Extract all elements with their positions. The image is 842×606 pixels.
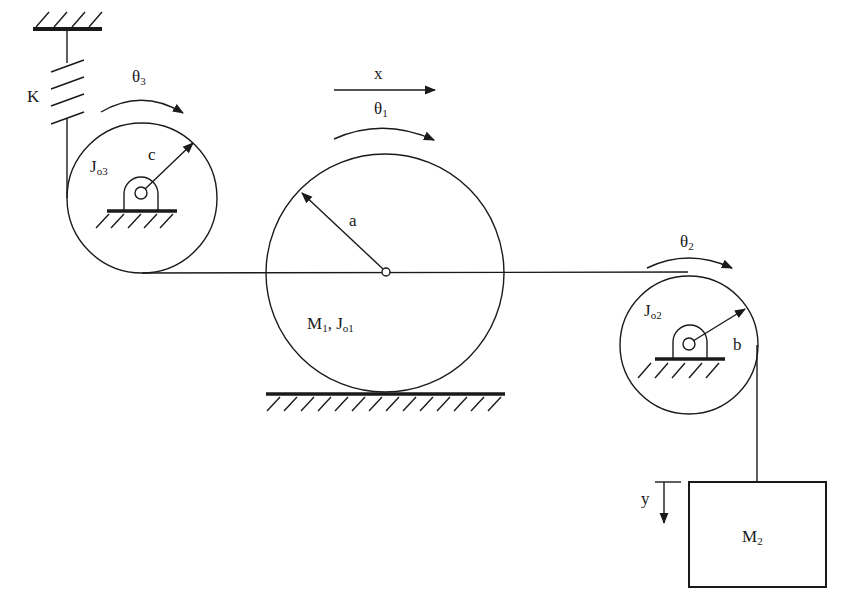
m1-jo1-label: M1, Jo1 xyxy=(307,315,354,334)
diagram-canvas xyxy=(0,0,842,606)
y-label: y xyxy=(641,490,650,507)
hanging-mass xyxy=(655,482,826,587)
spring xyxy=(51,29,84,198)
m2-label: M2 xyxy=(742,528,763,547)
x-label: x xyxy=(374,65,383,82)
radius-b-label: b xyxy=(733,336,742,353)
rolling-disk xyxy=(266,90,504,392)
floor-ground xyxy=(266,394,505,411)
left-pulley xyxy=(67,100,217,273)
jo3-label: Jo3 xyxy=(90,158,108,177)
mechanical-system-diagram: K θ3 Jo3 c x θ1 a M1, Jo1 θ2 Jo2 b y M2 xyxy=(0,0,842,606)
radius-c-label: c xyxy=(148,146,156,163)
theta2-label: θ2 xyxy=(680,233,694,252)
ceiling-ground xyxy=(33,12,102,29)
radius-a-label: a xyxy=(349,212,357,229)
cable xyxy=(142,272,757,482)
theta1-label: θ1 xyxy=(374,100,388,119)
spring-k-label: K xyxy=(27,88,39,105)
jo2-label: Jo2 xyxy=(644,302,662,321)
theta3-label: θ3 xyxy=(132,68,146,87)
